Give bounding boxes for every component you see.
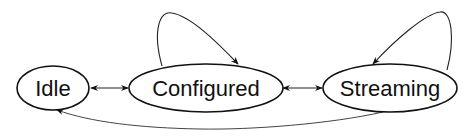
edge-streaming-self-loop	[373, 12, 451, 70]
node-configured-label: Configured	[152, 76, 260, 101]
edge-streaming-idle	[57, 110, 383, 129]
node-idle: Idle	[17, 66, 89, 110]
edge-configured-self-loop	[157, 13, 238, 66]
node-streaming-label: Streaming	[340, 76, 440, 101]
state-diagram: Idle Configured Streaming	[0, 0, 473, 136]
node-configured: Configured	[129, 64, 283, 112]
node-idle-label: Idle	[35, 76, 70, 101]
node-streaming: Streaming	[323, 64, 457, 112]
